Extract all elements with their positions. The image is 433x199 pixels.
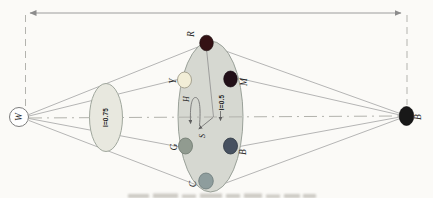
diagram-canvas: W B R M Y G B C H S I=0.5 I=0.75 <box>0 0 433 198</box>
cropped-caption-fragment <box>128 194 316 199</box>
blue-label: B <box>238 149 248 155</box>
black-point-label: B <box>413 114 423 120</box>
magenta-dot <box>224 71 238 87</box>
upper-plane-label: I=0.75 <box>102 108 109 127</box>
red-label: R <box>186 31 196 38</box>
red-dot <box>200 35 214 51</box>
saturation-label: S <box>198 134 207 138</box>
green-label: G <box>169 143 179 150</box>
white-point-label: W <box>14 112 24 121</box>
cyan-label: C <box>188 180 198 187</box>
mid-plane-label: I=0.5 <box>218 95 225 111</box>
blue-dot <box>224 138 238 154</box>
cyan-dot <box>199 173 214 189</box>
figure-hsi-double-cone: W B R M Y G B C H S I=0.5 I=0.75 <box>0 0 433 198</box>
green-dot <box>179 138 193 154</box>
magenta-label: M <box>239 77 249 87</box>
yellow-dot <box>178 72 192 88</box>
